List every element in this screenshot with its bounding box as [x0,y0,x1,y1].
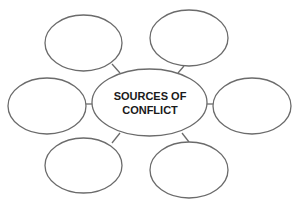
center-label-line-2: CONFLICT [122,104,178,116]
bubble-bottom-right [150,142,228,198]
connector-top-right [178,66,184,73]
connector-bottom-left [112,133,120,143]
connector-bottom-right [182,133,189,142]
connector-top-left [112,64,120,73]
center-label-line-1: SOURCES OF [114,90,187,102]
bubble-left [8,78,86,134]
center-bubble [92,69,207,136]
spider-diagram: SOURCES OF CONFLICT [0,0,302,209]
bubble-right [213,78,291,134]
bubble-bottom-left [45,138,122,193]
bubble-top-left [45,15,122,71]
bubble-top-right [150,10,228,66]
